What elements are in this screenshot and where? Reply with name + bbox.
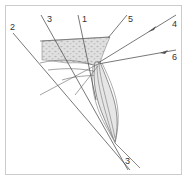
label-2: 2 — [10, 22, 15, 32]
label-5: 5 — [128, 14, 133, 24]
label-6: 6 — [172, 52, 177, 62]
label-1: 1 — [82, 14, 87, 24]
label-4: 4 — [172, 19, 177, 29]
label-3-bottom: 3 — [125, 156, 130, 166]
diagram-canvas: 2 3 1 5 4 6 3 — [0, 0, 187, 180]
label-3-top: 3 — [47, 14, 52, 24]
